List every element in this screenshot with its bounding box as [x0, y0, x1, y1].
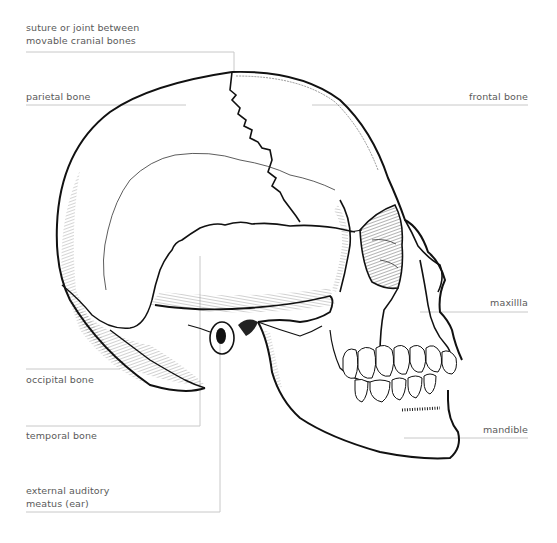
- label-maxilla: maxillla: [490, 296, 528, 309]
- leader-lines: [26, 52, 528, 512]
- label-external-auditory-meatus: external auditory meatus (ear): [26, 484, 109, 510]
- teeth: [343, 345, 457, 402]
- coronal-suture: [230, 72, 300, 222]
- skull-diagram: suture or joint between movable cranial …: [0, 0, 557, 543]
- label-mandible: mandible: [483, 423, 528, 436]
- label-parietal-bone: parietal bone: [26, 90, 90, 103]
- squamosal-suture: [152, 222, 355, 300]
- label-ear-line2: meatus (ear): [26, 497, 109, 510]
- label-temporal-bone: temporal bone: [26, 429, 97, 442]
- label-occipital-bone: occipital bone: [26, 373, 94, 386]
- mandibular-condyle: [238, 320, 258, 336]
- label-suture-line1: suture or joint between: [26, 21, 139, 34]
- ear-canal: [188, 322, 234, 354]
- label-suture: suture or joint between movable cranial …: [26, 21, 139, 47]
- label-ear-line1: external auditory: [26, 484, 109, 497]
- orbit: [360, 205, 403, 288]
- suture-leader: [26, 52, 234, 72]
- label-frontal-bone: frontal bone: [469, 90, 528, 103]
- skull-illustration: [0, 0, 557, 543]
- label-suture-line2: movable cranial bones: [26, 34, 139, 47]
